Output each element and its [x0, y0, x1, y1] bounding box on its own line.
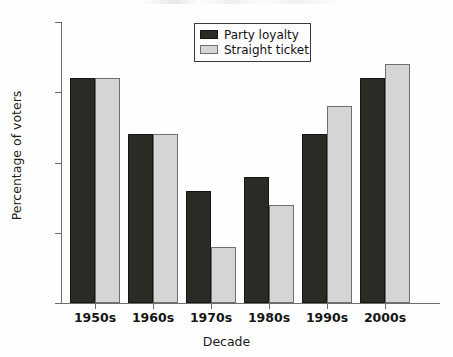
- bar-1960s-party-loyalty: [128, 134, 153, 303]
- legend-item-straight-ticket: Straight ticket: [200, 42, 305, 57]
- bar-2000s-straight-ticket: [385, 64, 410, 303]
- bar-chart-figure: 7075808590 1950s1960s1970s1980s1990s2000…: [0, 0, 453, 357]
- bar-1980s-straight-ticket: [269, 205, 294, 303]
- bar-1950s-party-loyalty: [70, 78, 95, 303]
- x-axis-title: Decade: [0, 334, 453, 349]
- legend-label-party-loyalty: Party loyalty: [224, 28, 299, 42]
- x-axis-line: [61, 303, 440, 304]
- x-tick-1970s: [211, 303, 212, 309]
- x-tick-1980s: [269, 303, 270, 309]
- bar-1960s-straight-ticket: [153, 134, 178, 303]
- bar-1990s-straight-ticket: [327, 106, 352, 303]
- legend-item-party-loyalty: Party loyalty: [200, 27, 305, 42]
- x-tick-1950s: [95, 303, 96, 309]
- legend-swatch-icon-straight-ticket: [200, 45, 218, 54]
- y-axis-title: Percentage of voters: [9, 76, 24, 236]
- bar-1990s-party-loyalty: [302, 134, 327, 303]
- bar-1970s-straight-ticket: [211, 247, 236, 303]
- scan-artifact: [140, 0, 340, 4]
- x-tick-1990s: [327, 303, 328, 309]
- y-tick-70: [55, 303, 61, 304]
- plot-area: [61, 22, 440, 303]
- x-tick-2000s: [385, 303, 386, 309]
- chart-legend: Party loyalty Straight ticket: [194, 23, 311, 62]
- legend-label-straight-ticket: Straight ticket: [224, 43, 309, 57]
- x-tick-1960s: [153, 303, 154, 309]
- bar-2000s-party-loyalty: [360, 78, 385, 303]
- bar-1950s-straight-ticket: [95, 78, 120, 303]
- x-label-2000s: 2000s: [350, 310, 420, 325]
- bar-1980s-party-loyalty: [244, 177, 269, 303]
- bar-1970s-party-loyalty: [186, 191, 211, 303]
- legend-swatch-icon-party-loyalty: [200, 30, 218, 39]
